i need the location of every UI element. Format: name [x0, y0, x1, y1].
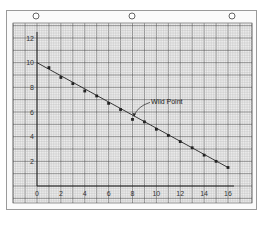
x-tick-label: 10 [152, 190, 160, 197]
binder-hole-icon [33, 13, 39, 19]
data-point [227, 166, 230, 169]
binder-hole-icon [129, 13, 135, 19]
data-point [203, 154, 206, 157]
x-tick-label: 2 [59, 190, 63, 197]
annotation-label: Wild Point [151, 98, 183, 105]
x-tick-label: 4 [83, 190, 87, 197]
data-point [48, 66, 51, 69]
data-point [107, 102, 110, 105]
grid [13, 23, 252, 203]
data-point [119, 108, 122, 111]
x-tick-label: 0 [35, 190, 39, 197]
chart-svg: 0246810121416 24681012 Wild Point [0, 0, 266, 226]
y-tick-label: 10 [26, 59, 34, 66]
wild-point [131, 118, 134, 121]
data-point [215, 160, 218, 163]
data-point [167, 134, 170, 137]
data-point [143, 120, 146, 123]
data-point [83, 90, 86, 93]
data-point [155, 128, 158, 131]
data-point [59, 76, 62, 79]
y-tick-label: 2 [30, 158, 34, 165]
data-point [95, 95, 98, 98]
binder-holes [33, 13, 235, 19]
x-tick-label: 6 [107, 190, 111, 197]
y-tick-label: 4 [30, 133, 34, 140]
data-point [179, 140, 182, 143]
y-tick-label: 6 [30, 109, 34, 116]
x-tick-label: 12 [176, 190, 184, 197]
y-tick-label: 12 [26, 35, 34, 42]
x-tick-label: 8 [131, 190, 135, 197]
data-point [71, 82, 74, 85]
x-tick-label: 14 [200, 190, 208, 197]
binder-hole-icon [229, 13, 235, 19]
y-tick-label: 8 [30, 84, 34, 91]
data-point [191, 146, 194, 149]
x-tick-label: 16 [224, 190, 232, 197]
